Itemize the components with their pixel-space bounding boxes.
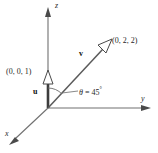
v-vector-shaft — [48, 49, 103, 108]
u-vector-arrowhead — [43, 70, 53, 84]
y-axis-arrowhead — [141, 105, 151, 111]
u-vector-label: u — [33, 88, 37, 96]
v-vector-arrowhead — [98, 39, 112, 53]
x-axis-label: x — [5, 130, 9, 138]
v-point-label: (0, 2, 2) — [112, 37, 137, 45]
z-axis-arrowhead — [45, 7, 51, 17]
v-vector-label: v — [79, 50, 83, 58]
x-axis-line — [16, 108, 48, 138]
y-axis-label: y — [141, 95, 145, 103]
x-axis-arrowhead — [9, 137, 19, 145]
diagram-canvas — [0, 0, 158, 153]
u-point-label: (0, 0, 1) — [6, 68, 31, 76]
vector-diagram-figure: z y x (0, 0, 1) u v (0, 2, 2) θ = 45° — [0, 0, 158, 153]
angle-label: θ = 45° — [79, 86, 102, 97]
angle-arc — [48, 88, 62, 94]
z-axis-label: z — [55, 2, 58, 10]
degree-symbol: ° — [99, 86, 101, 92]
